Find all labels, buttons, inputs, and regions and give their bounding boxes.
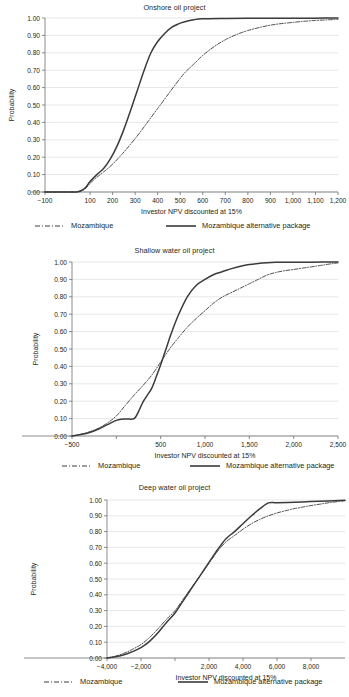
- x-axis-tick-label: 400: [152, 197, 163, 204]
- chart-legend-shallow-water: Mozambique Mozambique alternative packag…: [0, 462, 349, 476]
- legend-label-alternative-package: Mozambique alternative package: [202, 222, 310, 229]
- x-axis-tick-label: −500: [65, 441, 80, 448]
- x-axis-tick-label: 1,000: [285, 197, 302, 204]
- x-axis-tick-label: −4,000: [97, 663, 118, 670]
- y-axis-tick-label: 0.50: [89, 576, 102, 583]
- legend-swatch-solid: [178, 678, 208, 686]
- x-axis-tick-label: 800: [242, 197, 253, 204]
- legend-swatch-dashdot: [44, 678, 74, 686]
- y-axis-tick-label: 0.80: [89, 528, 102, 535]
- y-axis-tick-label: 0.30: [27, 136, 40, 143]
- y-axis-tick-label: 1.00: [27, 15, 40, 22]
- y-axis-tick-label: 0.30: [89, 607, 102, 614]
- y-axis-tick-label: 0.20: [89, 623, 102, 630]
- legend-label-mozambique: Mozambique: [71, 222, 113, 229]
- x-axis-tick-label: 300: [130, 197, 141, 204]
- legend-label-mozambique: Mozambique: [80, 678, 122, 685]
- y-axis-tick-label: 0.70: [89, 544, 102, 551]
- x-axis-tick-label: −100: [38, 197, 53, 204]
- y-axis-tick-label: 0.70: [27, 67, 40, 74]
- legend-label-alternative-package: Mozambique alternative package: [214, 678, 322, 685]
- y-axis-tick-label: 0.40: [27, 119, 40, 126]
- legend-item-mozambique[interactable]: Mozambique: [35, 222, 113, 230]
- y-axis-tick-label: 0.60: [27, 84, 40, 91]
- y-axis-tick-label: 0.60: [89, 560, 102, 567]
- legend-label-mozambique: Mozambique: [98, 462, 140, 469]
- x-axis-tick-label: 600: [197, 197, 208, 204]
- x-axis-tick-label: 500: [155, 441, 166, 448]
- y-axis-tick-label: 0.50: [27, 102, 40, 109]
- chart-canvas-shallow-water: 0.000.100.200.300.400.500.600.700.800.90…: [0, 240, 349, 480]
- y-axis-tick-label: 1.00: [89, 497, 102, 504]
- series-line-mozambique: [72, 263, 338, 436]
- y-axis-label: Probability: [8, 88, 16, 121]
- y-axis-tick-label: 0.90: [54, 276, 67, 283]
- chart-panel-onshore: Onshore oil project 0.000.100.200.300.40…: [0, 0, 349, 240]
- y-axis-tick-label: 0.30: [54, 380, 67, 387]
- legend-item-mozambique[interactable]: Mozambique: [44, 678, 122, 686]
- x-axis-tick-label: 1,000: [197, 441, 214, 448]
- x-axis-tick-label: 700: [220, 197, 231, 204]
- y-axis-tick-label: 0.10: [89, 639, 102, 646]
- x-axis-tick-label: 100: [85, 197, 96, 204]
- y-axis-tick-label: 1.00: [54, 259, 67, 266]
- legend-item-alternative-package[interactable]: Mozambique alternative package: [190, 462, 334, 470]
- y-axis-label: Probability: [30, 562, 38, 595]
- x-axis-tick-label: 900: [265, 197, 276, 204]
- x-axis-tick-label: 200: [107, 197, 118, 204]
- legend-item-mozambique[interactable]: Mozambique: [62, 462, 140, 470]
- y-axis-tick-label: 0.10: [27, 171, 40, 178]
- x-axis-tick-label: −2,000: [131, 663, 152, 670]
- legend-swatch-solid: [166, 222, 196, 230]
- x-axis-label: Investor NPV discounted at 15%: [141, 208, 242, 215]
- chart-legend-onshore: Mozambique Mozambique alternative packag…: [0, 222, 349, 236]
- y-axis-tick-label: 0.20: [27, 154, 40, 161]
- legend-swatch-dashdot: [62, 462, 92, 470]
- chart-legend-deep-water: Mozambique Mozambique alternative packag…: [0, 678, 349, 692]
- x-axis-tick-label: 1,100: [307, 197, 324, 204]
- series-line-mozambique: [107, 501, 345, 658]
- y-axis-tick-label: 0.40: [54, 363, 67, 370]
- y-axis-tick-label: 0.50: [54, 346, 67, 353]
- y-axis-tick-label: 0.10: [54, 415, 67, 422]
- y-axis-label: Probability: [32, 332, 40, 365]
- legend-item-alternative-package[interactable]: Mozambique alternative package: [166, 222, 310, 230]
- x-axis-tick-label: 8,000: [303, 663, 320, 670]
- chart-panel-deep-water: Deep water oil project 0.000.100.200.300…: [0, 480, 349, 697]
- chart-canvas-deep-water: 0.000.100.200.300.400.500.600.700.800.90…: [0, 480, 349, 697]
- y-axis-tick-label: 0.60: [54, 328, 67, 335]
- y-axis-tick-label: 0.70: [54, 311, 67, 318]
- series-line-mozambique: [45, 19, 338, 192]
- y-axis-tick-label: 0.20: [54, 398, 67, 405]
- y-axis-tick-label: 0.90: [89, 512, 102, 519]
- chart-canvas-onshore: 0.000.100.200.300.400.500.600.700.800.90…: [0, 0, 349, 240]
- legend-swatch-dashdot: [35, 222, 65, 230]
- y-axis-tick-label: 0.80: [27, 49, 40, 56]
- x-axis-tick-label: 1,500: [241, 441, 258, 448]
- y-axis-tick-label: 0.80: [54, 293, 67, 300]
- chart-panel-shallow-water: Shallow water oil project 0.000.100.200.…: [0, 240, 349, 480]
- x-axis-tick-label: 1,200: [330, 197, 347, 204]
- y-axis-tick-label: 0.40: [89, 591, 102, 598]
- legend-swatch-solid: [190, 462, 220, 470]
- x-axis-tick-label: 2,000: [285, 441, 302, 448]
- legend-label-alternative-package: Mozambique alternative package: [226, 462, 334, 469]
- x-axis-tick-label: 4,000: [235, 663, 252, 670]
- y-axis-tick-label: 0.90: [27, 32, 40, 39]
- legend-item-alternative-package[interactable]: Mozambique alternative package: [178, 678, 322, 686]
- x-axis-label: Investor NPV discounted at 15%: [155, 452, 256, 459]
- x-axis-tick-label: 500: [175, 197, 186, 204]
- x-axis-tick-label: 2,000: [201, 663, 218, 670]
- x-axis-tick-label: 6,000: [269, 663, 286, 670]
- x-axis-tick-label: 2,500: [330, 441, 347, 448]
